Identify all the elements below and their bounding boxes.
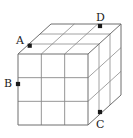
marker-d xyxy=(98,24,102,28)
cube-outline xyxy=(18,24,121,125)
marker-a xyxy=(28,44,32,48)
right-grid-diag-2 xyxy=(88,71,121,101)
marker-b xyxy=(16,82,20,86)
cube-drawing xyxy=(0,0,133,138)
vertex-label-a: A xyxy=(16,35,24,46)
vertex-label-b: B xyxy=(4,78,12,89)
right-face-grid xyxy=(88,34,121,115)
right-grid-diag-1 xyxy=(88,48,121,78)
front-face-grid xyxy=(18,54,88,125)
cube-figure: A B C D xyxy=(0,0,133,138)
vertex-label-d: D xyxy=(96,12,105,23)
edge-depth-bottom-right xyxy=(88,95,121,125)
marker-c xyxy=(98,110,102,114)
top-face-grid xyxy=(29,24,110,54)
vertex-label-c: C xyxy=(96,119,104,130)
